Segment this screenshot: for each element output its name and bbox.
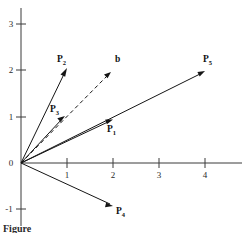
vector-p2-shaft [21, 72, 65, 163]
figure-caption-text: Figure [3, 224, 123, 233]
vector-label-p4: P4 [116, 206, 126, 218]
y-tick-label-neg1: -1 [5, 204, 13, 214]
vector-p3-arrowhead [57, 116, 65, 122]
vector-label-p3: P3 [50, 104, 60, 116]
figure-caption: Figure [3, 224, 123, 233]
vector-label-b: b [115, 54, 120, 64]
axis-group [21, 8, 242, 226]
vector-p2 [21, 68, 67, 163]
vector-p5 [21, 71, 205, 163]
vector-diagram-figure: 1 2 3 4 3 2 1 -1 0 [0, 0, 245, 233]
x-tick-label-4: 4 [203, 170, 208, 180]
vector-plot-canvas: 1 2 3 4 3 2 1 -1 0 [0, 0, 245, 233]
vector-b-arrowhead [104, 72, 111, 78]
y-tick-label-2: 2 [9, 65, 14, 75]
vector-label-p5: P5 [203, 54, 213, 66]
vector-p5-shaft [21, 73, 202, 163]
y-tick-label-3: 3 [9, 19, 14, 29]
vector-label-p3-subscript: 3 [56, 109, 60, 116]
vector-b [21, 72, 111, 163]
y-tick-labels: 3 2 1 -1 0 [5, 19, 14, 214]
vector-b-shaft [21, 75, 108, 163]
x-tick-label-2: 2 [111, 170, 116, 180]
vector-label-p1: P1 [107, 124, 116, 136]
origin-label: 0 [9, 158, 14, 168]
vector-label-p4-subscript: 4 [122, 211, 126, 218]
vector-label-p2: P2 [57, 54, 66, 66]
vector-label-p5-subscript: 5 [209, 59, 213, 66]
x-tick-label-1: 1 [65, 170, 70, 180]
y-tick-label-1: 1 [9, 112, 14, 122]
vector-p5-arrowhead [197, 71, 205, 77]
vector-labels: P2 P3 P1 P4 P5 b [50, 54, 213, 218]
x-tick-label-3: 3 [157, 170, 162, 180]
x-tick-labels: 1 2 3 4 [65, 170, 208, 180]
vector-label-p1-subscript: 1 [113, 129, 116, 136]
vector-label-p2-subscript: 2 [63, 59, 66, 66]
vector-p2-arrowhead [61, 68, 68, 77]
